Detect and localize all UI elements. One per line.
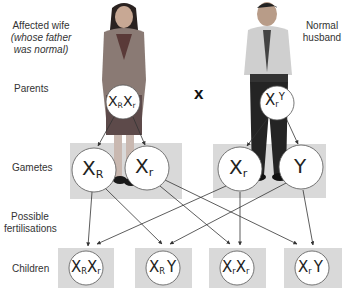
cross-symbol: x (194, 84, 203, 104)
child-1-genotype: XRXr (71, 260, 101, 275)
fertilisation-arrows (88, 180, 313, 246)
gamete-2-label: Xr (135, 156, 153, 176)
gamete-4-label: Y (294, 156, 306, 176)
child-3-genotype: XrXr (222, 260, 249, 275)
husband-genotype: XrY (265, 93, 285, 108)
child-4-genotype: XrY (298, 260, 323, 275)
gamete-1-label: XR (82, 158, 103, 178)
diagram-canvas (0, 0, 345, 296)
gamete-3-label: Xr (229, 157, 247, 177)
wife-genotype: XRXr (108, 94, 136, 108)
child-2-genotype: XRY (149, 260, 176, 275)
